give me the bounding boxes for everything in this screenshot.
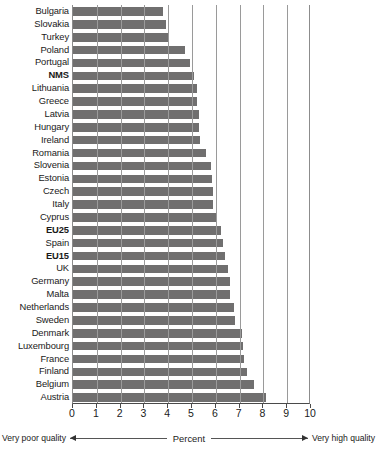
x-tick-mark [167,404,168,408]
bar-row [73,224,309,237]
category-label: Austria [0,391,69,404]
x-tick-mark [262,404,263,408]
bar-row [73,31,309,44]
bar-row [73,250,309,263]
x-tick-mark [310,404,311,408]
category-label: Germany [0,275,69,288]
category-label: Netherlands [0,301,69,314]
x-tick-mark [239,404,240,408]
x-tick-label: 1 [93,406,99,420]
category-label: Hungary [0,121,69,134]
x-tick-label: 4 [164,406,170,420]
bar [73,226,221,235]
bar-row [73,134,309,147]
bar [73,380,254,389]
x-tick-mark [72,404,73,408]
category-label: Italy [0,198,69,211]
category-label: France [0,353,69,366]
x-tick-mark [96,404,97,408]
x-axis-tick-labels: 012345678910 [0,406,377,422]
bar-row [73,56,309,69]
x-tick-mark [143,404,144,408]
left-arrow-icon [70,438,167,439]
x-tick-label: 5 [188,406,194,420]
bar-row [73,185,309,198]
bar-row [73,159,309,172]
category-label: Bulgaria [0,5,69,18]
x-axis-title: Percent [167,433,211,444]
bar-row [73,108,309,121]
bar-row [73,327,309,340]
right-arrow-icon [211,438,308,439]
category-label: NMS [0,69,69,82]
category-label: Denmark [0,327,69,340]
category-label: Poland [0,44,69,57]
category-label: UK [0,262,69,275]
x-tick-mark [120,404,121,408]
bar-row [73,237,309,250]
bar [73,149,206,158]
bar-row [73,288,309,301]
gridline [263,5,264,403]
axis-quality-legend: Very poor quality Percent Very high qual… [0,428,377,448]
bar-row [73,147,309,160]
category-label: Portugal [0,56,69,69]
bar-row [73,198,309,211]
bar-row [73,69,309,82]
bar [73,368,247,377]
bar [73,123,199,132]
bar-row [73,391,309,404]
category-label: Slovakia [0,18,69,31]
bar [73,72,194,81]
x-tick-label: 7 [236,406,242,420]
category-label: Finland [0,365,69,378]
bar-row [73,275,309,288]
bar [73,97,197,106]
category-label: Romania [0,147,69,160]
category-label: Luxembourg [0,340,69,353]
category-label: Sweden [0,314,69,327]
bar-row [73,121,309,134]
bar [73,393,266,402]
bar-row [73,378,309,391]
x-tick-label: 2 [117,406,123,420]
bar [73,84,197,93]
x-tick-mark [191,404,192,408]
category-label: Spain [0,237,69,250]
x-tick-label: 10 [304,406,316,420]
x-tick-mark [286,404,287,408]
bar [73,110,199,119]
category-label: Estonia [0,172,69,185]
bar [73,7,163,16]
bar [73,136,200,145]
gridline [216,5,217,403]
bar-row [73,95,309,108]
category-label: Slovenia [0,159,69,172]
bar-row [73,211,309,224]
bar [73,342,243,351]
gridline [287,5,288,403]
x-tick-label: 3 [140,406,146,420]
category-label: Belgium [0,378,69,391]
bar-row [73,314,309,327]
axis-left-annotation: Very poor quality [0,433,70,443]
x-tick-label: 9 [283,406,289,420]
gridline [240,5,241,403]
bar-row [73,365,309,378]
category-label: Latvia [0,108,69,121]
category-label: Cyprus [0,211,69,224]
bar-rows [73,5,309,403]
horizontal-bar-chart: BulgariaSlovakiaTurkeyPolandPortugalNMSL… [0,0,377,451]
x-tick-label: 6 [212,406,218,420]
bar-row [73,301,309,314]
category-label: Malta [0,288,69,301]
category-label: Lithuania [0,82,69,95]
plot-area [72,5,310,404]
category-label: Turkey [0,31,69,44]
bar-row [73,82,309,95]
gridline [144,5,145,403]
category-label: Ireland [0,134,69,147]
category-axis-labels: BulgariaSlovakiaTurkeyPolandPortugalNMSL… [0,5,69,404]
bar-row [73,44,309,57]
bar-row [73,340,309,353]
